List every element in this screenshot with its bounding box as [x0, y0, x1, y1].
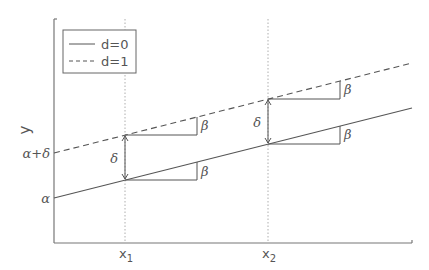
legend: d=0 d=1 [63, 30, 136, 73]
delta-label-x2: δ [253, 115, 261, 130]
legend-label-d1: d=1 [101, 54, 128, 69]
x1-label: x1 [119, 246, 133, 264]
tick-alpha-delta: α+δ [23, 146, 51, 161]
delta-label-x1: δ [110, 151, 118, 166]
x2-label: x2 [262, 246, 276, 264]
beta-label-4: β [343, 127, 352, 142]
line-d1 [54, 63, 412, 153]
beta-label-2: β [200, 164, 209, 179]
line-d0 [54, 108, 412, 198]
y-axis-label: y [16, 125, 34, 134]
diagram-canvas: δ δ β β β β α+δ α y x1 x2 d=0 d=1 [0, 0, 429, 270]
beta-label-1: β [200, 118, 209, 133]
tick-alpha: α [41, 191, 50, 206]
beta-label-3: β [343, 82, 352, 97]
slope-triangles [125, 81, 340, 180]
legend-label-d0: d=0 [101, 37, 128, 52]
